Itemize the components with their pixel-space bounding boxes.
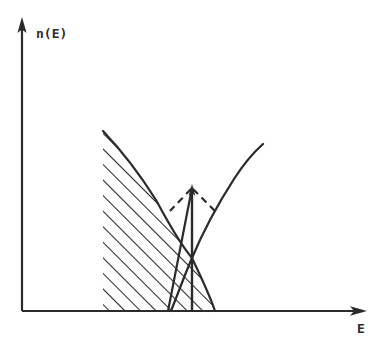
- x-axis-label: E: [357, 321, 365, 336]
- diagram-svg: [0, 0, 388, 358]
- y-axis: [17, 17, 26, 311]
- figure-canvas: n(E) E: [0, 0, 388, 358]
- hatched-occupied-region: [95, 122, 227, 314]
- broadened-peak-right-flank: [193, 189, 217, 213]
- y-axis-label: n(E): [36, 26, 67, 41]
